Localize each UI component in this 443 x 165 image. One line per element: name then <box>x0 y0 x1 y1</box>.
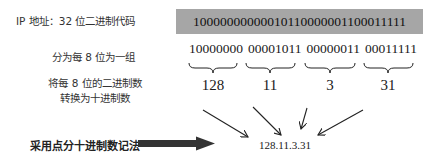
arrow-icon-2 <box>253 107 281 135</box>
brace-icon-4 <box>364 63 413 73</box>
brace-icon-1 <box>189 63 237 73</box>
brace-icon-3 <box>305 63 355 73</box>
decimal-value-3: 3 <box>305 77 355 94</box>
arrow-icon-4 <box>318 110 363 135</box>
arrow-icon-1 <box>203 110 248 137</box>
decimal-value-1: 128 <box>188 77 238 94</box>
decimal-value-2: 11 <box>245 77 295 94</box>
dotted-decimal-result: 128.11.3.31 <box>255 139 315 151</box>
decimal-value-4: 31 <box>363 77 413 94</box>
thick-arrow-icon <box>138 137 215 151</box>
brace-icon-2 <box>246 63 295 73</box>
arrow-icon-3 <box>301 108 307 129</box>
